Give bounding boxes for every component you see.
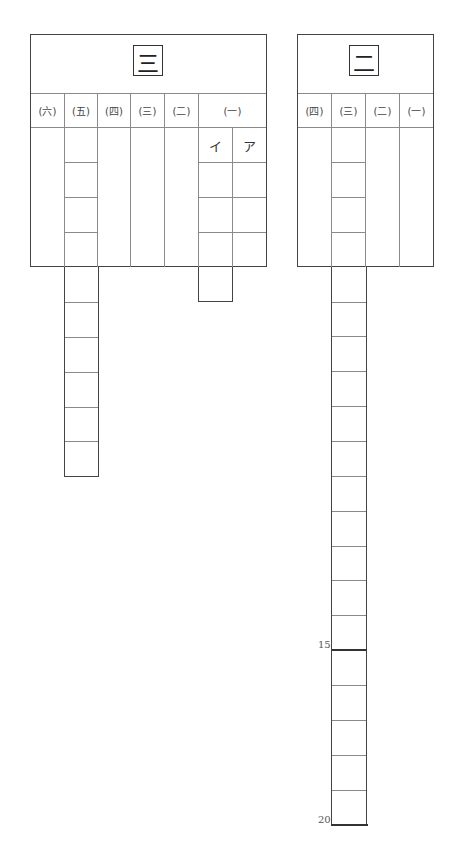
sub-label-i: イ (199, 128, 232, 162)
answer-area-3-3[interactable] (131, 128, 164, 266)
grid-cell-2-3[interactable] (333, 616, 366, 649)
column-label-3: (三) (131, 94, 164, 127)
marker-15: 15 (318, 639, 331, 650)
grid-cell-2-3[interactable] (333, 477, 366, 511)
grid-cell-2-3[interactable] (333, 547, 366, 580)
answer-area-3-6[interactable] (31, 128, 64, 266)
column-label-4: (四) (98, 94, 130, 127)
grid-marker-line-20 (331, 824, 368, 826)
grid-cell-3-5[interactable] (65, 268, 98, 302)
answer-area-2-4[interactable] (298, 128, 331, 266)
grid-cell-2-3[interactable] (333, 651, 366, 685)
grid-cell-3-5[interactable] (65, 233, 97, 267)
column-label-1: (一) (199, 94, 266, 127)
grid-cell-2-3[interactable] (333, 756, 366, 790)
grid-cell-2-3[interactable] (333, 686, 366, 720)
column-label-6: (六) (31, 94, 64, 127)
answer-area-3-4[interactable] (98, 128, 130, 266)
grid-cell-2-3[interactable] (333, 407, 366, 441)
grid-cell-2-3[interactable] (333, 512, 366, 546)
answer-cell-i[interactable] (199, 233, 232, 267)
grid-cell-2-3[interactable] (332, 233, 365, 267)
column-label-2: (二) (165, 94, 198, 127)
column-label-1: (一) (400, 94, 433, 127)
grid-cell-2-3[interactable] (333, 268, 366, 302)
column-label-5: (五) (65, 94, 97, 127)
column-label-4: (四) (298, 94, 331, 127)
column-label-3: (三) (332, 94, 365, 127)
grid-cell-2-3[interactable] (333, 337, 366, 371)
grid-cell-3-5[interactable] (65, 408, 98, 441)
answer-area-3-2[interactable] (165, 128, 198, 266)
grid-cell-2-3[interactable] (332, 198, 365, 232)
answer-area-2-1[interactable] (400, 128, 433, 266)
column-label-2: (二) (366, 94, 399, 127)
answer-cell-i[interactable] (199, 163, 232, 197)
grid-cell-2-3[interactable] (333, 372, 366, 406)
answer-cell-a[interactable] (233, 198, 266, 232)
section-2-title: 二 (349, 45, 379, 76)
grid-cell-2-3[interactable] (333, 791, 366, 824)
answer-area-2-2[interactable] (366, 128, 399, 266)
grid-cell-3-5[interactable] (65, 338, 98, 372)
grid-cell-3-5[interactable] (65, 373, 98, 407)
section-3-title: 三 (133, 45, 163, 76)
grid-cell-2-3[interactable] (333, 721, 366, 755)
grid-cell-2-3[interactable] (332, 128, 365, 162)
grid-cell-2-3[interactable] (333, 442, 366, 476)
answer-cell-i[interactable] (199, 198, 232, 232)
grid-cell-2-3[interactable] (332, 163, 365, 197)
sub-label-a: ア (233, 128, 266, 162)
grid-cell-3-5[interactable] (65, 442, 98, 476)
grid-cell-3-5[interactable] (65, 303, 98, 337)
grid-cell-3-5[interactable] (65, 128, 97, 162)
grid-cell-3-5[interactable] (65, 198, 97, 232)
grid-cell-3-5[interactable] (65, 163, 97, 197)
grid-cell-2-3[interactable] (333, 303, 366, 336)
marker-20: 20 (318, 814, 331, 825)
answer-cell-i-extension[interactable] (198, 267, 233, 302)
grid-cell-2-3[interactable] (333, 581, 366, 615)
answer-cell-a[interactable] (233, 233, 266, 267)
answer-cell-a[interactable] (233, 163, 266, 197)
